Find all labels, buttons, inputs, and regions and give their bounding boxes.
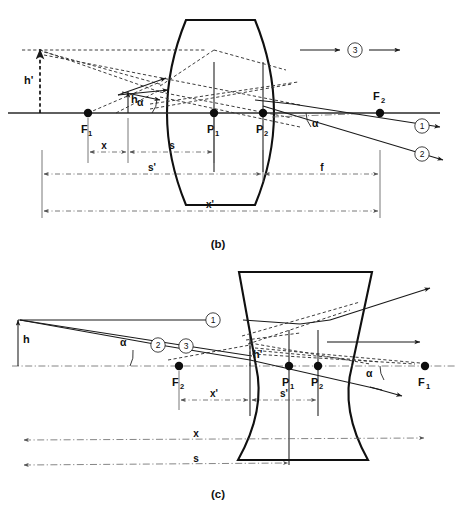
ray-badge-2-c: 2 bbox=[151, 338, 165, 352]
label-alpha-left-b: α bbox=[137, 96, 144, 108]
label-P1-b: P bbox=[207, 123, 214, 135]
point-P1-c bbox=[285, 362, 293, 370]
optics-figure: h' h bbox=[0, 0, 465, 507]
point-P1-b bbox=[210, 109, 218, 117]
label-F1-c: F bbox=[418, 376, 425, 388]
label-dim-s-b: s bbox=[169, 140, 175, 151]
label-alpha-left-c: α bbox=[120, 336, 127, 348]
label-F2-sub-c: 2 bbox=[180, 382, 184, 391]
label-dim-x-b: x bbox=[101, 140, 107, 151]
label-dim-s-c: s bbox=[193, 453, 199, 464]
panel-caption-c: (c) bbox=[211, 488, 225, 500]
label-F2-sub-b: 2 bbox=[381, 96, 385, 105]
label-P1-sub-c: 1 bbox=[290, 382, 294, 391]
point-F1-b bbox=[84, 109, 92, 117]
label-h-c: h bbox=[23, 333, 30, 345]
point-F2-c bbox=[175, 362, 183, 370]
ray-badge-3-c: 3 bbox=[179, 339, 193, 353]
label-P1-c: P bbox=[282, 376, 289, 388]
page-background bbox=[0, 0, 465, 507]
label-alpha-right-c: α bbox=[366, 367, 373, 379]
ray-3-label-c: 3 bbox=[184, 341, 189, 351]
label-dim-x-prime-c: x' bbox=[210, 388, 218, 399]
label-P2-sub-b: 2 bbox=[264, 129, 268, 138]
label-dim-x-prime-b: x' bbox=[206, 199, 214, 210]
ray-1-label-b: 1 bbox=[420, 121, 425, 131]
label-P1-sub-b: 1 bbox=[215, 129, 219, 138]
ray-1-label-c: 1 bbox=[211, 315, 216, 325]
label-dim-s-prime-c: s' bbox=[280, 388, 288, 399]
label-dim-x-c: x bbox=[193, 428, 199, 439]
label-F1-sub-c: 1 bbox=[426, 382, 430, 391]
point-F2-b bbox=[376, 109, 384, 117]
panel-caption-b: (b) bbox=[211, 238, 226, 250]
label-P2-sub-c: 2 bbox=[319, 382, 323, 391]
ray-3-label-b: 3 bbox=[353, 45, 358, 55]
point-P2-b bbox=[259, 109, 267, 117]
point-P2-c bbox=[314, 362, 322, 370]
ray-badge-1-c: 1 bbox=[206, 313, 220, 327]
label-P2-b: P bbox=[256, 123, 263, 135]
point-F1-c bbox=[421, 362, 429, 370]
label-h-prime-b: h' bbox=[24, 74, 34, 86]
label-F2-b: F bbox=[373, 90, 380, 102]
label-F2-c: F bbox=[172, 376, 179, 388]
label-P2-c: P bbox=[311, 376, 318, 388]
label-F1-b: F bbox=[81, 123, 88, 135]
label-alpha-right-b: α bbox=[312, 117, 319, 129]
ray-badge-2-b: 2 bbox=[415, 147, 429, 161]
label-dim-s-prime-b: s' bbox=[148, 162, 156, 173]
ray-badge-3-b: 3 bbox=[348, 43, 362, 57]
figure-canvas: h' h bbox=[0, 0, 465, 507]
label-F1-sub-b: 1 bbox=[88, 129, 92, 138]
ray-2-label-c: 2 bbox=[156, 340, 161, 350]
ray-2-label-b: 2 bbox=[420, 149, 425, 159]
ray-badge-1-b: 1 bbox=[415, 119, 429, 133]
